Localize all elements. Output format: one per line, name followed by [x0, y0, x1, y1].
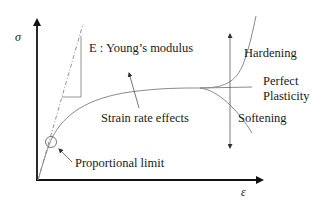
- youngs-modulus-label: E : Young’s modulus: [89, 41, 193, 55]
- proportional-limit-arrow: [59, 149, 72, 162]
- plasticity-label: Plasticity: [263, 89, 310, 103]
- perfect-plasticity-branch: [200, 87, 252, 88]
- hardening-label: Hardening: [244, 46, 298, 60]
- x-axis-label: ε: [241, 185, 246, 199]
- strain-rate-arrow: [129, 73, 139, 108]
- softening-label: Softening: [238, 111, 287, 125]
- proportional-limit-marker: [46, 137, 57, 148]
- proportional-limit-label: Proportional limit: [75, 156, 165, 170]
- slope-triangle: [62, 36, 81, 97]
- perfect-label: Perfect: [263, 74, 299, 88]
- stress-strain-diagram: σ ε E : Young’s modulus Proportional lim…: [0, 0, 327, 205]
- strain-rate-label: Strain rate effects: [101, 111, 189, 125]
- y-axis-label: σ: [15, 30, 22, 44]
